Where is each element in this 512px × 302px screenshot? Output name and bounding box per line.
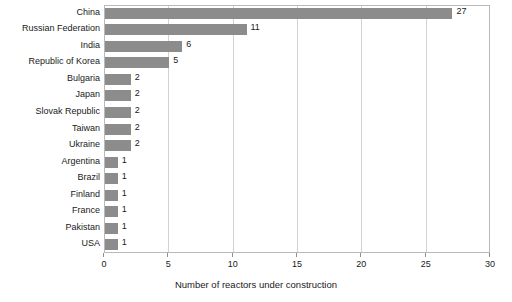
category-label: Bulgaria xyxy=(0,73,100,84)
bar xyxy=(105,107,131,118)
bar-row: 11 xyxy=(105,24,491,35)
bar-value-label: 1 xyxy=(118,171,127,182)
bar-row: 2 xyxy=(105,124,491,135)
bar xyxy=(105,8,452,19)
bar-value-label: 27 xyxy=(452,6,466,17)
bar-row: 2 xyxy=(105,107,491,118)
plot-area: 27116522222111111 xyxy=(104,5,490,253)
category-label: France xyxy=(0,205,100,216)
bar-value-label: 2 xyxy=(131,122,140,133)
bar xyxy=(105,206,118,217)
bar-row: 1 xyxy=(105,223,491,234)
bar-row: 2 xyxy=(105,140,491,151)
category-label: India xyxy=(0,40,100,51)
category-label: Pakistan xyxy=(0,222,100,233)
x-tick-mark xyxy=(360,253,361,257)
bar-row: 6 xyxy=(105,41,491,52)
x-tick-label: 25 xyxy=(421,259,431,270)
x-tick-label: 5 xyxy=(166,259,171,270)
bar-row: 1 xyxy=(105,173,491,184)
bar-value-label: 2 xyxy=(131,72,140,83)
bar xyxy=(105,41,182,52)
x-tick-mark xyxy=(232,253,233,257)
x-tick-mark xyxy=(489,253,490,257)
bar-value-label: 1 xyxy=(118,188,127,199)
category-label: Republic of Korea xyxy=(0,56,100,67)
x-tick-mark xyxy=(167,253,168,257)
category-label: Brazil xyxy=(0,172,100,183)
bar xyxy=(105,140,131,151)
category-label: Ukraine xyxy=(0,139,100,150)
bar-row: 5 xyxy=(105,57,491,68)
x-tick-mark xyxy=(103,253,104,257)
category-label: Russian Federation xyxy=(0,23,100,34)
category-label: Taiwan xyxy=(0,123,100,134)
bar xyxy=(105,74,131,85)
bar-row: 1 xyxy=(105,239,491,250)
x-tick-label: 15 xyxy=(292,259,302,270)
bar-row: 1 xyxy=(105,157,491,168)
bar-value-label: 5 xyxy=(169,55,178,66)
x-tick-label: 0 xyxy=(101,259,106,270)
bar-value-label: 11 xyxy=(247,22,260,33)
bar-row: 2 xyxy=(105,90,491,101)
category-label: Slovak Republic xyxy=(0,106,100,117)
bar xyxy=(105,57,169,68)
bar-value-label: 2 xyxy=(131,88,140,99)
bar xyxy=(105,239,118,250)
bar-value-label: 1 xyxy=(118,221,127,232)
bar-value-label: 6 xyxy=(182,39,191,50)
bar xyxy=(105,124,131,135)
category-label: Finland xyxy=(0,189,100,200)
bar-row: 1 xyxy=(105,206,491,217)
bar-row: 27 xyxy=(105,8,491,19)
bar xyxy=(105,173,118,184)
category-label: USA xyxy=(0,238,100,249)
bar xyxy=(105,190,118,201)
x-tick-label: 20 xyxy=(356,259,366,270)
bar xyxy=(105,24,247,35)
x-tick-mark xyxy=(425,253,426,257)
bar-row: 1 xyxy=(105,190,491,201)
x-tick-mark xyxy=(296,253,297,257)
bar-value-label: 2 xyxy=(131,105,140,116)
category-label: Japan xyxy=(0,89,100,100)
x-tick-label: 10 xyxy=(228,259,238,270)
bar xyxy=(105,223,118,234)
bar-value-label: 1 xyxy=(118,155,127,166)
bar-value-label: 1 xyxy=(118,204,127,215)
bar xyxy=(105,157,118,168)
bar-value-label: 1 xyxy=(118,237,127,248)
category-label: China xyxy=(0,7,100,18)
bar xyxy=(105,90,131,101)
chart-screenshot: 27116522222111111 ChinaRussian Federatio… xyxy=(0,0,512,302)
x-axis-title: Number of reactors under construction xyxy=(0,279,512,291)
bar-value-label: 2 xyxy=(131,138,140,149)
category-label: Argentina xyxy=(0,156,100,167)
bar-row: 2 xyxy=(105,74,491,85)
x-tick-label: 30 xyxy=(485,259,495,270)
